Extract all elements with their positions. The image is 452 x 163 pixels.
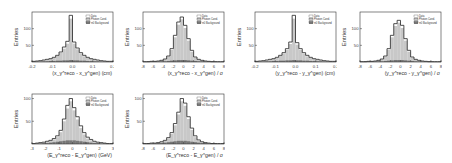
svg-text:2: 2 bbox=[192, 64, 195, 69]
svg-text:50: 50 bbox=[137, 119, 142, 124]
svg-text:50: 50 bbox=[354, 43, 359, 48]
svg-text:6: 6 bbox=[213, 146, 216, 151]
svg-text:1: 1 bbox=[85, 146, 88, 151]
svg-text:Entries: Entries bbox=[124, 110, 130, 129]
svg-text:(y_γ^reco - y_γ^gen) / σ: (y_γ^reco - y_γ^gen) / σ bbox=[385, 70, 441, 76]
svg-text:-2: -2 bbox=[172, 146, 176, 151]
svg-text:-2: -2 bbox=[172, 64, 176, 69]
svg-text:Entries: Entries bbox=[341, 28, 347, 47]
svg-text:50: 50 bbox=[137, 43, 142, 48]
svg-text:(E_γ^reco - E_γ^gen) (GeV): (E_γ^reco - E_γ^gen) (GeV) bbox=[47, 152, 112, 158]
svg-text:50: 50 bbox=[26, 119, 31, 124]
svg-text:-8: -8 bbox=[358, 64, 362, 69]
svg-text:-4: -4 bbox=[378, 64, 382, 69]
svg-text:0.1: 0.1 bbox=[313, 64, 319, 69]
svg-text:50: 50 bbox=[26, 43, 31, 48]
svg-text:100: 100 bbox=[135, 26, 143, 31]
svg-text:-4: -4 bbox=[161, 64, 165, 69]
svg-text:-6: -6 bbox=[151, 146, 155, 151]
svg-text:-1: -1 bbox=[57, 146, 61, 151]
svg-text:-0.2: -0.2 bbox=[251, 64, 259, 69]
svg-text:-6: -6 bbox=[151, 64, 155, 69]
svg-text:4: 4 bbox=[420, 64, 423, 69]
svg-text:8: 8 bbox=[440, 64, 442, 69]
histogram-panel-3: -0.2-0.10.00.10.250100Entries(y_γ^reco -… bbox=[225, 0, 337, 80]
svg-text:Entries: Entries bbox=[236, 28, 242, 47]
svg-text:0: 0 bbox=[182, 146, 185, 151]
histogram-panel-6: -8-6-4-20246850100Entries(E_γ^reco - E_γ… bbox=[113, 82, 225, 162]
svg-text:8: 8 bbox=[223, 146, 225, 151]
svg-text:(E_γ^reco - E_γ^gen) / σ: (E_γ^reco - E_γ^gen) / σ bbox=[166, 152, 224, 158]
histogram-panel-2: -8-6-4-20246850100Entries(x_γ^reco - x_γ… bbox=[113, 0, 225, 80]
svg-text:100: 100 bbox=[135, 96, 143, 101]
svg-text:2: 2 bbox=[409, 64, 412, 69]
svg-text:Entries: Entries bbox=[13, 110, 19, 129]
svg-text:100: 100 bbox=[24, 26, 32, 31]
svg-text:(x_γ^reco - x_γ^gen) / σ: (x_γ^reco - x_γ^gen) / σ bbox=[168, 70, 224, 76]
svg-text:50: 50 bbox=[249, 43, 254, 48]
svg-text:100: 100 bbox=[352, 26, 360, 31]
svg-text:-8: -8 bbox=[141, 64, 145, 69]
svg-text:4: 4 bbox=[203, 64, 206, 69]
svg-text:100: 100 bbox=[247, 26, 255, 31]
svg-text:0.1: 0.1 bbox=[90, 64, 96, 69]
svg-text:-0.2: -0.2 bbox=[28, 64, 36, 69]
histogram-panel-4: -8-6-4-20246850100Entries(y_γ^reco - y_γ… bbox=[330, 0, 442, 80]
svg-text:6: 6 bbox=[213, 64, 216, 69]
svg-text:-0.1: -0.1 bbox=[272, 64, 280, 69]
svg-text:-4: -4 bbox=[161, 146, 165, 151]
svg-text:2: 2 bbox=[98, 146, 101, 151]
svg-text:100: 100 bbox=[24, 96, 32, 101]
svg-text:0: 0 bbox=[182, 64, 185, 69]
svg-text:π0 Background: π0 Background bbox=[202, 103, 220, 107]
svg-text:Entries: Entries bbox=[13, 28, 19, 47]
svg-text:0: 0 bbox=[399, 64, 402, 69]
svg-text:Entries: Entries bbox=[124, 28, 130, 47]
svg-text:-2: -2 bbox=[44, 146, 48, 151]
histogram-panel-1: -0.2-0.10.00.10.250100Entries(x_γ^reco -… bbox=[2, 0, 114, 80]
svg-text:(y_γ^reco - y_γ^gen) (cm): (y_γ^reco - y_γ^gen) (cm) bbox=[275, 70, 335, 76]
svg-text:4: 4 bbox=[203, 146, 206, 151]
svg-text:-8: -8 bbox=[141, 146, 145, 151]
svg-text:2: 2 bbox=[192, 146, 195, 151]
svg-text:6: 6 bbox=[430, 64, 433, 69]
histogram-panel-5: -3-2-1012350100Entries(E_γ^reco - E_γ^ge… bbox=[2, 82, 114, 162]
svg-text:π0 Background: π0 Background bbox=[202, 21, 220, 25]
svg-text:-0.1: -0.1 bbox=[49, 64, 57, 69]
svg-text:π0 Background: π0 Background bbox=[91, 21, 109, 25]
svg-text:0: 0 bbox=[71, 146, 74, 151]
svg-text:-3: -3 bbox=[30, 146, 34, 151]
svg-text:0.0: 0.0 bbox=[70, 64, 76, 69]
svg-text:-6: -6 bbox=[368, 64, 372, 69]
svg-text:π0 Background: π0 Background bbox=[91, 103, 109, 107]
svg-text:-2: -2 bbox=[389, 64, 393, 69]
svg-text:(x_γ^reco - x_γ^gen) (cm): (x_γ^reco - x_γ^gen) (cm) bbox=[52, 70, 112, 76]
svg-text:π0 Background: π0 Background bbox=[419, 21, 437, 25]
svg-text:0.0: 0.0 bbox=[293, 64, 299, 69]
